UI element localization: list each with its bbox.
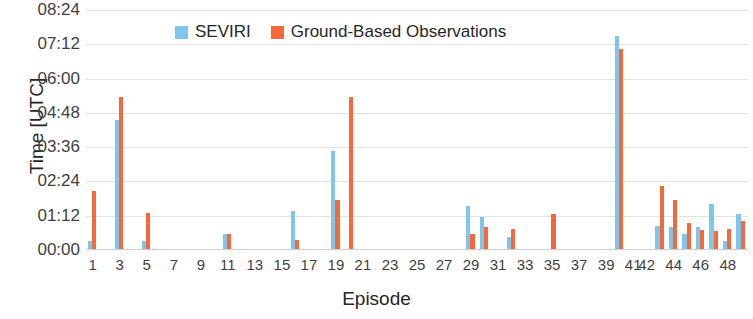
y-axis-tick-label: 04:48 (18, 103, 80, 123)
bar-group (154, 10, 168, 250)
bar-group (262, 10, 276, 250)
x-axis-tick-labels: 1357911131517192123252729313335373941424… (86, 256, 748, 282)
x-axis-tick-label: 7 (170, 256, 178, 273)
bar-ground (470, 234, 474, 250)
bar-ground (673, 200, 677, 250)
bar-group (208, 10, 222, 250)
bar-group (100, 10, 114, 250)
plot-area (86, 10, 748, 250)
y-axis-tick-labels: 00:0001:1202:2403:3604:4806:0007:1208:24 (18, 0, 80, 319)
x-axis-tick-label: 9 (197, 256, 205, 273)
bar-ground (92, 191, 96, 250)
bar-group (680, 10, 694, 250)
bar-group (653, 10, 667, 250)
bar-group (316, 10, 330, 250)
x-axis-tick-label: 1 (89, 256, 97, 273)
legend-swatch-seviri (175, 26, 188, 39)
x-axis-tick-label: 19 (328, 256, 345, 273)
x-axis-tick-label: 13 (247, 256, 264, 273)
y-axis-tick-label: 01:12 (18, 206, 80, 226)
y-axis-tick-label: 08:24 (18, 0, 80, 20)
y-axis-tick-label: 07:12 (18, 34, 80, 54)
x-axis-tick-label: 17 (301, 256, 318, 273)
x-axis-tick-label: 11 (220, 256, 236, 273)
x-axis-tick-label: 27 (436, 256, 453, 273)
y-axis-tick-label: 03:36 (18, 137, 80, 157)
bar-group (113, 10, 127, 250)
bar-group (437, 10, 451, 250)
bar-group (626, 10, 640, 250)
x-axis-tick-label: 15 (274, 256, 291, 273)
bar-group (572, 10, 586, 250)
bar-group (613, 10, 627, 250)
bar-group (545, 10, 559, 250)
y-axis-tick-label: 02:24 (18, 171, 80, 191)
bar-group (532, 10, 546, 250)
legend-label: Ground-Based Observations (291, 22, 506, 42)
bar-ground (727, 229, 731, 250)
bar-ground (335, 200, 339, 250)
bar-ground (700, 230, 704, 250)
bar-group (181, 10, 195, 250)
x-axis-tick-label: 35 (544, 256, 561, 273)
x-axis-tick-label: 25 (409, 256, 426, 273)
bar-group (518, 10, 532, 250)
bar-group (221, 10, 235, 250)
x-axis-tick-label: 23 (382, 256, 399, 273)
bar-group (667, 10, 681, 250)
x-axis-tick-label: 5 (143, 256, 151, 273)
x-axis-tick-label: 21 (355, 256, 372, 273)
x-axis-tick-label: 31 (490, 256, 507, 273)
bar-group (383, 10, 397, 250)
bar-group (599, 10, 613, 250)
bar-ground (741, 221, 745, 250)
bar-group (478, 10, 492, 250)
bar-group (397, 10, 411, 250)
bar-ground (660, 186, 664, 250)
bar-ground (146, 213, 150, 250)
x-axis-tick-label: 3 (116, 256, 124, 273)
bar-group (289, 10, 303, 250)
legend-swatch-ground (271, 26, 284, 39)
legend-label: SEVIRI (195, 22, 251, 42)
x-axis-tick-label: 44 (665, 256, 682, 273)
legend-entry: SEVIRI (175, 22, 251, 42)
bar-group (694, 10, 708, 250)
bar-group (640, 10, 654, 250)
bar-group (343, 10, 357, 250)
bar-chart: Time [UTC] 00:0001:1202:2403:3604:4806:0… (0, 0, 753, 319)
bar-group (86, 10, 100, 250)
x-axis-tick-label: 42 (638, 256, 655, 273)
bar-group (356, 10, 370, 250)
x-axis-tick-label: 29 (463, 256, 480, 273)
bar-group (451, 10, 465, 250)
chart-legend: SEVIRIGround-Based Observations (175, 22, 506, 42)
bar-group (734, 10, 748, 250)
bar-group (235, 10, 249, 250)
bar-group (464, 10, 478, 250)
x-axis-tick-label: 39 (598, 256, 615, 273)
bar-group (194, 10, 208, 250)
x-axis-tick-label: 37 (571, 256, 588, 273)
bar-group (167, 10, 181, 250)
bar-group (329, 10, 343, 250)
bar-ground (227, 234, 231, 250)
bar-group (707, 10, 721, 250)
bar-ground (687, 223, 691, 250)
x-axis-title: Episode (0, 288, 753, 310)
bar-group (410, 10, 424, 250)
bar-group (370, 10, 384, 250)
bar-ground (551, 214, 555, 250)
bar-group (721, 10, 735, 250)
bar-ground (349, 97, 353, 250)
axis-baseline (86, 249, 748, 250)
y-axis-tick-label: 06:00 (18, 69, 80, 89)
x-axis-tick-label: 46 (692, 256, 709, 273)
bar-ground (714, 231, 718, 250)
bar-group (505, 10, 519, 250)
bar-ground (511, 229, 515, 250)
bar-group (302, 10, 316, 250)
bars-layer (86, 10, 748, 250)
y-axis-tick-label: 00:00 (18, 240, 80, 260)
bar-group (491, 10, 505, 250)
